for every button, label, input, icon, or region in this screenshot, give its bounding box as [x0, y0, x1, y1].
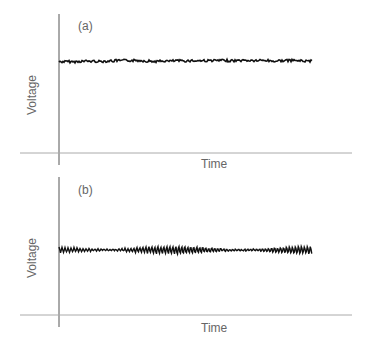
panel-b: (b) Voltage Time: [0, 174, 369, 348]
x-axis-label-a: Time: [201, 157, 227, 171]
signal-trace-b: [59, 246, 312, 253]
plot-b: [0, 174, 369, 348]
panel-label-b: (b): [78, 183, 93, 197]
y-axis-label-a: Voltage: [25, 75, 39, 115]
y-axis-label-b: Voltage: [25, 238, 39, 278]
x-axis-label-b: Time: [201, 321, 227, 335]
plot-a: [0, 0, 369, 174]
panel-a: (a) Voltage Time: [0, 0, 369, 174]
panel-label-a: (a): [78, 19, 93, 33]
signal-trace-a: [59, 59, 312, 63]
